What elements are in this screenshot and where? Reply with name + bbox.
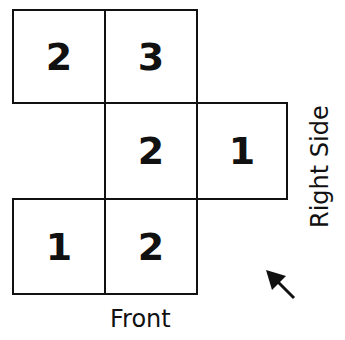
grid-cell-r1c1: 2 xyxy=(12,9,106,104)
grid-cell-r1c2: 3 xyxy=(104,9,198,104)
grid-cell-r3c1: 1 xyxy=(12,198,106,295)
grid-cell-r3c2: 2 xyxy=(104,198,198,295)
right-side-label: Right Side xyxy=(306,105,334,228)
grid-cell-r2c3: 1 xyxy=(196,102,288,200)
arrow-up-left-icon xyxy=(262,266,298,302)
front-label: Front xyxy=(110,305,171,333)
grid-cell-r2c2: 2 xyxy=(104,102,198,200)
